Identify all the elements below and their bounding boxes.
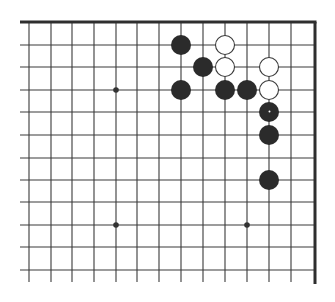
stone-mark: [269, 111, 271, 113]
star-point: [113, 222, 119, 228]
black-stone: [259, 125, 279, 145]
black-stone: [193, 57, 213, 77]
white-stone: [216, 36, 235, 55]
black-stone: [237, 80, 257, 100]
star-point: [113, 87, 119, 93]
black-stone: [259, 170, 279, 190]
white-stone: [260, 58, 279, 77]
white-stone: [216, 58, 235, 77]
go-board: [0, 0, 335, 302]
white-stone: [260, 81, 279, 100]
black-stone: [171, 35, 191, 55]
black-stone: [171, 80, 191, 100]
star-point: [244, 222, 250, 228]
black-stone: [215, 80, 235, 100]
